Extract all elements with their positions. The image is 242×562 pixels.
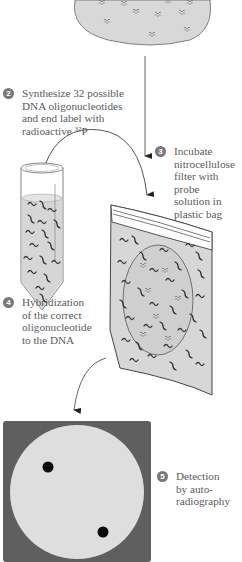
step-5-text: Detection by auto- radiography [157, 470, 242, 508]
autoradiograph [3, 421, 151, 562]
plastic-bag [110, 205, 212, 395]
hybridization-spot [43, 462, 54, 473]
step-number-badge: 5 [157, 471, 168, 482]
step-number-badge: 2 [3, 88, 14, 99]
step-2-text: Synthesize 32 possible DNA oligonucleoti… [3, 87, 133, 137]
probe-tube [21, 163, 63, 310]
step-2-label: 2 Synthesize 32 possible DNA oligonucleo… [3, 87, 133, 137]
step-5-label: 5 Detection by auto- radiography [157, 470, 242, 508]
step-3-text: Incubate nitrocellulose filter with prob… [155, 145, 242, 221]
step-4-label: 4 Hybridization of the correct oligonucl… [3, 296, 103, 346]
arrow-bag-to-film [74, 358, 106, 410]
step-number-badge: 4 [3, 297, 14, 308]
diagram: 2 Synthesize 32 possible DNA oligonucleo… [0, 0, 242, 562]
filter-disc [74, 0, 210, 45]
step-3-label: 3 Incubate nitrocellulose filter with pr… [155, 145, 242, 221]
hybridization-spot [98, 527, 109, 538]
step-4-text: Hybridization of the correct oligonucleo… [3, 296, 103, 346]
step-number-badge: 3 [155, 146, 166, 157]
